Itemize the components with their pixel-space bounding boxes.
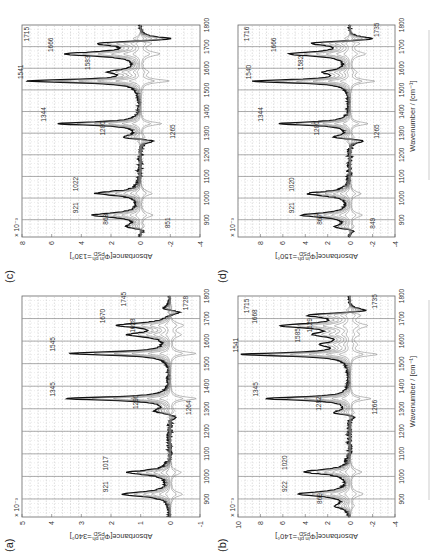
- x-tick-label: 1100: [203, 169, 210, 183]
- svg-text:1344: 1344: [257, 107, 264, 122]
- x-tick-label: 1600: [203, 61, 210, 76]
- x-tick-label: 1700: [203, 311, 210, 326]
- x-tick-label: 1300: [203, 401, 210, 416]
- y-tick-label: -2: [369, 521, 376, 527]
- peak-annotation: 1264: [185, 400, 192, 415]
- peak-annotation: 1735: [373, 22, 380, 37]
- svg-text:922: 922: [281, 481, 288, 492]
- svg-text:921: 921: [288, 202, 295, 213]
- svg-text:1280: 1280: [313, 121, 320, 136]
- svg-text:1290: 1290: [132, 394, 139, 409]
- peak-annotation: 921: [72, 202, 79, 213]
- x-axis-label: Wavenumber / [cm⁻¹]: [408, 356, 417, 427]
- y-tick-label: 3: [78, 521, 85, 525]
- peak-annotation: 1020: [281, 455, 288, 470]
- x-tick-label: 1800: [203, 17, 210, 32]
- x-tick-label: 1100: [398, 169, 405, 183]
- peak-annotation: 1345: [49, 382, 56, 397]
- svg-text:1668: 1668: [251, 309, 258, 324]
- y-tick-label: 4: [48, 521, 55, 525]
- svg-text:1541: 1541: [17, 64, 24, 79]
- peak-annotation: 1670: [99, 308, 106, 323]
- svg-text:1266: 1266: [371, 400, 378, 415]
- x-tick-label: 1100: [203, 446, 210, 460]
- x-tick-label: 1300: [398, 126, 405, 141]
- y-tick-label: -4: [392, 521, 399, 527]
- peak-annotation: 1728: [182, 295, 189, 310]
- x-tick-label: 1800: [203, 288, 210, 303]
- peak-annotation: 1280: [313, 121, 320, 136]
- svg-text:1020: 1020: [288, 177, 295, 192]
- y-axis-label: Absorbance[Φin ph.PSD=140°]: [275, 531, 358, 542]
- svg-text:1540: 1540: [245, 64, 252, 79]
- peak-annotation: 1266: [371, 400, 378, 415]
- peak-annotation: 1668: [251, 309, 258, 324]
- x-tick-label: 1500: [398, 82, 405, 97]
- y-scale-note: × 10⁻³: [229, 497, 236, 517]
- x-tick-label: 1600: [398, 333, 405, 348]
- peak-annotation: 1344: [40, 107, 47, 122]
- y-tick-label: 6: [279, 521, 286, 525]
- svg-text:1264: 1264: [185, 400, 192, 415]
- x-tick-label: 1200: [203, 147, 210, 162]
- svg-text:1735: 1735: [373, 22, 380, 37]
- y-axis-label: Absorbance[Φin ph.PSD=340°]: [70, 531, 153, 542]
- peak-annotation: 921: [288, 202, 295, 213]
- plot-c: 8688519211022128012651344154115831666171…: [22, 0, 240, 237]
- x-tick-label: 1400: [398, 379, 405, 394]
- x-tick-label: 1600: [203, 333, 210, 348]
- y-tick-label: 1: [137, 521, 144, 525]
- x-tick-label: 1800: [398, 17, 405, 32]
- peak-annotation: 1017: [102, 456, 109, 471]
- svg-text:867: 867: [316, 214, 323, 225]
- svg-text:1582: 1582: [297, 55, 304, 70]
- y-tick-label: 2: [108, 521, 115, 525]
- svg-text:1666: 1666: [47, 37, 54, 52]
- svg-text:849: 849: [369, 217, 376, 228]
- x-tick-label: 1600: [398, 61, 405, 76]
- svg-text:921: 921: [102, 481, 109, 492]
- peak-annotation: 922: [281, 481, 288, 492]
- peak-annotation: 1735: [371, 294, 378, 309]
- peak-annotation: 849: [369, 217, 376, 228]
- svg-text:1728: 1728: [182, 295, 189, 310]
- peak-annotation: 1545: [49, 337, 56, 352]
- peak-annotation: 1020: [288, 177, 295, 192]
- y-scale-note: × 10⁻³: [229, 217, 236, 237]
- panel-label: (b): [216, 539, 228, 552]
- x-tick-label: 1000: [203, 469, 210, 484]
- x-tick-label: 1800: [398, 288, 405, 303]
- y-tick-label: 4: [302, 521, 309, 525]
- x-tick-label: 1000: [398, 469, 405, 484]
- y-tick-label: 2: [324, 521, 331, 525]
- peak-annotation: 868: [102, 213, 109, 224]
- peak-annotation: 1583: [84, 55, 91, 70]
- svg-text:1344: 1344: [40, 107, 47, 122]
- peak-annotation: 1265: [373, 124, 380, 139]
- peak-annotation: 869: [316, 493, 323, 504]
- svg-text:851: 851: [164, 217, 171, 228]
- svg-text:1585: 1585: [294, 328, 301, 343]
- y-tick-label: 0: [347, 521, 354, 525]
- x-tick-label: 1300: [398, 401, 405, 416]
- svg-text:1545: 1545: [49, 337, 56, 352]
- peak-annotation: 1628: [129, 318, 136, 333]
- x-tick-label: 1400: [203, 379, 210, 394]
- svg-text:1022: 1022: [72, 176, 79, 191]
- y-tick-label: 10: [235, 521, 242, 529]
- y-tick-label: 8: [257, 521, 264, 525]
- x-tick-label: 900: [398, 214, 405, 225]
- panel-label: (c): [3, 270, 15, 283]
- y-tick-label: 5: [19, 521, 26, 525]
- y-scale-note: × 10⁻³: [13, 217, 20, 237]
- svg-text:1629: 1629: [306, 318, 313, 333]
- peak-annotation: 867: [316, 214, 323, 225]
- svg-text:1670: 1670: [99, 308, 106, 323]
- svg-text:1745: 1745: [120, 292, 127, 307]
- svg-text:869: 869: [316, 493, 323, 504]
- svg-text:1282: 1282: [315, 396, 322, 411]
- peak-annotation: 1666: [270, 37, 277, 52]
- peak-annotation: 1585: [294, 328, 301, 343]
- peak-annotation: 1582: [297, 55, 304, 70]
- peak-annotation: 1715: [243, 298, 250, 313]
